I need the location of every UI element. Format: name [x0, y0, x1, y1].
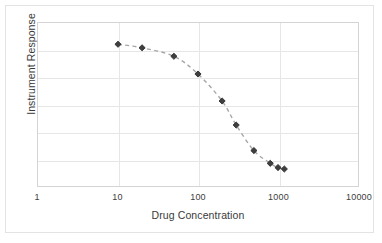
fit-curve	[118, 44, 284, 169]
data-point	[281, 166, 287, 172]
plot-area	[37, 22, 359, 187]
x-tick-label: 1	[34, 192, 39, 202]
data-point	[171, 53, 177, 59]
chart-card: 1 10 100 1000 10000 Drug Concentration I…	[5, 5, 374, 233]
data-plot	[38, 23, 358, 186]
x-axis-title: Drug Concentration	[37, 209, 359, 221]
data-point-markers	[115, 41, 287, 172]
x-tick-label: 10	[112, 192, 122, 202]
data-point	[115, 41, 121, 47]
data-point	[275, 165, 281, 171]
y-axis-title: Instrument Response	[25, 0, 37, 144]
data-point	[139, 45, 145, 51]
x-tick-label: 1000	[268, 192, 289, 202]
x-tick-label: 100	[190, 192, 206, 202]
x-tick-label: 10000	[346, 192, 372, 202]
